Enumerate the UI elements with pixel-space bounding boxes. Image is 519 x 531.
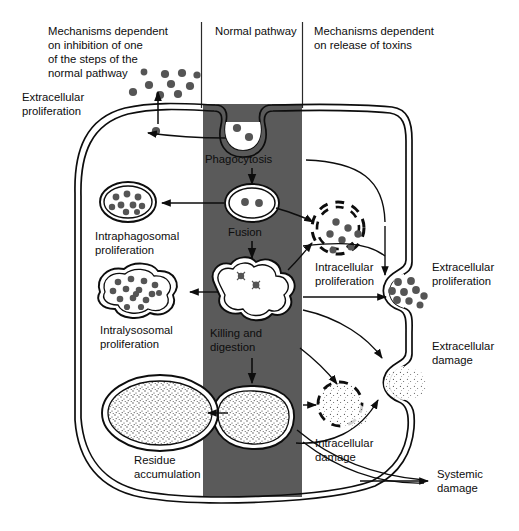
bacterium — [145, 81, 153, 89]
bacterium — [233, 124, 241, 132]
label-extracellular-proliferation-left-line-1: Extracellular — [22, 91, 84, 103]
label-killing-line-1: Killing and — [210, 327, 262, 339]
label-killing-line-2: digestion — [210, 341, 255, 353]
extracellular-damage-diffusion — [384, 368, 428, 400]
bacterium — [193, 71, 200, 78]
label-intracellular-damage-line-1: Intracellular — [315, 437, 374, 449]
label-extracellular-damage-line-1: Extracellular — [432, 340, 494, 352]
label-phagocytosis: Phagocytosis — [205, 153, 273, 165]
head-left-line-4: normal pathway — [48, 67, 128, 79]
head-center-line-1: Normal pathway — [215, 25, 297, 37]
head-right-line-2: on release of toxins — [314, 39, 412, 51]
label-intracellular-damage-line-2: damage — [315, 451, 356, 463]
figure-canvas: Mechanisms dependent on inhibition of on… — [0, 0, 519, 531]
head-left-line-2: on inhibition of one — [48, 39, 143, 51]
bacterium — [255, 199, 263, 207]
label-intraphagosomal-line-1: Intraphagosomal — [95, 230, 179, 242]
column-heading-center: Normal pathway — [215, 25, 297, 37]
label-extracellular-proliferation-left-line-2: proliferation — [22, 105, 81, 117]
label-intracellular-proliferation-line-1: Intracellular — [315, 261, 374, 273]
label-intralysosomal-line-2: proliferation — [100, 338, 159, 350]
residue-inner — [108, 381, 212, 445]
label-residue-line-2: accumulation — [134, 468, 201, 480]
phagosome-inner — [229, 188, 275, 218]
label-intraphagosomal-line-2: proliferation — [95, 244, 154, 256]
intraphagosomal-vesicle — [100, 182, 156, 222]
bacterium — [161, 70, 169, 78]
pathway-diagram: Mechanisms dependent on inhibition of on… — [0, 0, 519, 531]
head-left-line-3: of the steps of the — [48, 53, 138, 65]
residual-body-center — [213, 386, 294, 449]
label-extracellular-proliferation-right-line-2: proliferation — [432, 275, 491, 287]
label-extracellular-damage-line-2: damage — [432, 354, 473, 366]
label-systemic-damage-line-1: Systemic — [437, 468, 483, 480]
bacterium — [241, 198, 249, 206]
bacterium — [178, 69, 186, 77]
label-systemic-damage-line-2: damage — [437, 482, 478, 494]
phagosome-vesicle — [225, 184, 279, 222]
head-left-line-1: Mechanisms dependent — [48, 25, 169, 37]
label-intracellular-proliferation-line-2: proliferation — [315, 275, 374, 287]
bacterium — [174, 90, 182, 98]
bacterium — [129, 88, 137, 96]
leaked-contents — [336, 403, 368, 429]
bacterium — [167, 80, 175, 88]
residual-body-inner — [218, 391, 289, 444]
label-residue-line-1: Residue — [134, 454, 175, 466]
head-right-line-1: Mechanisms dependent — [314, 25, 435, 37]
bacterium — [186, 82, 194, 90]
bacterium — [245, 133, 253, 141]
label-fusion: Fusion — [228, 226, 262, 238]
label-intralysosomal-line-1: Intralysosomal — [100, 324, 173, 336]
bacterium — [156, 91, 164, 99]
bacterium — [141, 69, 148, 76]
label-extracellular-proliferation-right-line-1: Extracellular — [432, 261, 494, 273]
residue-accumulation-vesicle — [102, 375, 218, 451]
